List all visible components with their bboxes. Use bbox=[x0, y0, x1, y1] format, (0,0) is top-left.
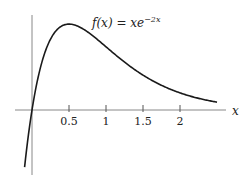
x-axis-label: x bbox=[232, 104, 239, 118]
chart-title: f(x) = xe−2x bbox=[91, 15, 161, 30]
function-curve bbox=[25, 24, 217, 167]
x-tick-label: 2 bbox=[177, 115, 184, 128]
x-tick-label: 1.5 bbox=[134, 115, 152, 128]
chart: 0.511.52 x f(x) = xe−2x bbox=[0, 0, 249, 182]
x-tick-labels: 0.511.52 bbox=[60, 115, 183, 128]
x-tick-label: 0.5 bbox=[60, 115, 78, 128]
x-ticks bbox=[69, 105, 180, 112]
x-tick-label: 1 bbox=[103, 115, 110, 128]
